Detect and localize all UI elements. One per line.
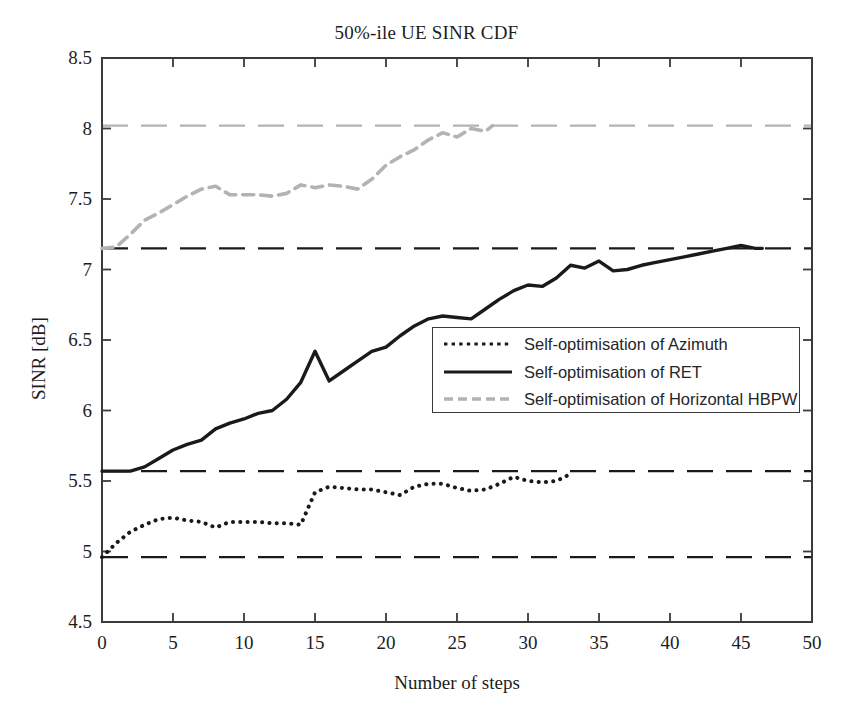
y-tick-label: 5 — [24, 541, 92, 563]
x-tick-label: 40 — [661, 632, 680, 654]
x-tick-label: 50 — [803, 632, 822, 654]
x-tick-label: 10 — [235, 632, 254, 654]
legend-swatch-solid-icon — [442, 365, 514, 379]
legend[interactable]: Self-optimisation of Azimuth Self-optimi… — [432, 327, 800, 413]
x-tick-label: 20 — [377, 632, 396, 654]
y-tick-label: 7.5 — [24, 188, 92, 210]
y-tick-label: 8.5 — [24, 47, 92, 69]
y-tick-label: 5.5 — [24, 470, 92, 492]
x-tick-label: 45 — [732, 632, 751, 654]
legend-item-hbpw[interactable]: Self-optimisation of Horizontal HBPW — [433, 385, 799, 413]
series-line-0 — [102, 474, 571, 557]
legend-label-azimuth: Self-optimisation of Azimuth — [524, 335, 728, 354]
y-tick-label: 7 — [24, 259, 92, 281]
y-tick-label: 4.5 — [24, 611, 92, 633]
legend-label-hbpw: Self-optimisation of Horizontal HBPW — [524, 390, 797, 409]
x-tick-label: 5 — [168, 632, 178, 654]
y-tick-label: 8 — [24, 118, 92, 140]
legend-label-ret: Self-optimisation of RET — [524, 363, 702, 382]
x-tick-label: 0 — [97, 632, 107, 654]
x-tick-label: 30 — [519, 632, 538, 654]
legend-swatch-dotted-icon — [442, 337, 514, 351]
series-line-2 — [102, 126, 493, 249]
legend-item-ret[interactable]: Self-optimisation of RET — [433, 358, 799, 386]
y-tick-label: 6.5 — [24, 329, 92, 351]
x-tick-label: 35 — [590, 632, 609, 654]
x-tick-label: 25 — [448, 632, 467, 654]
legend-item-azimuth[interactable]: Self-optimisation of Azimuth — [433, 330, 799, 358]
legend-swatch-dashed-icon — [442, 392, 514, 406]
chart-figure: 50%-ile UE SINR CDF SINR [dB] Number of … — [0, 0, 853, 725]
y-tick-label: 6 — [24, 400, 92, 422]
x-tick-label: 15 — [306, 632, 325, 654]
